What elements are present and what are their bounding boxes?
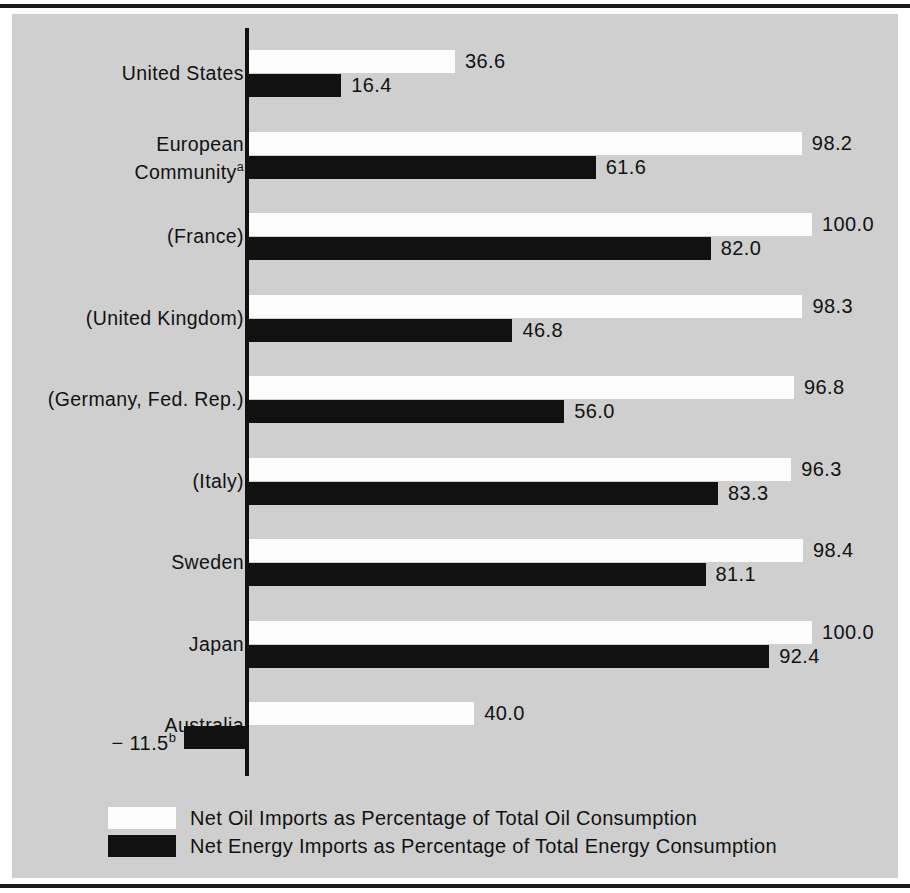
legend-swatch-oil xyxy=(108,807,176,829)
chart-panel: United States36.616.4EuropeanCommunitya9… xyxy=(12,14,898,878)
energy-bar-japan xyxy=(249,645,769,668)
energy-bar-united-kingdom xyxy=(249,319,512,342)
footnote-marker-australia-energy: b xyxy=(169,730,177,745)
legend-row-energy: Net Energy Imports as Percentage of Tota… xyxy=(12,832,898,860)
chart-legend: Net Oil Imports as Percentage of Total O… xyxy=(12,804,898,860)
legend-label-energy: Net Energy Imports as Percentage of Tota… xyxy=(190,832,777,860)
energy-bar-united-states xyxy=(249,74,341,97)
oil-value-united-kingdom: 98.3 xyxy=(812,295,853,318)
chart-page: United States36.616.4EuropeanCommunitya9… xyxy=(0,0,910,893)
oil-value-germany-fed-rep: 96.8 xyxy=(804,376,845,399)
energy-value-united-kingdom: 46.8 xyxy=(522,319,563,342)
energy-value-united-states: 16.4 xyxy=(351,74,392,97)
bar-group-australia: Australia40.0− 11.5b xyxy=(12,702,898,749)
bar-group-united-kingdom: (United Kingdom)98.346.8 xyxy=(12,295,898,342)
oil-value-japan: 100.0 xyxy=(822,621,874,644)
energy-value-australia: − 11.5b xyxy=(112,726,177,755)
energy-bar-european-community xyxy=(249,156,596,179)
legend-row-oil: Net Oil Imports as Percentage of Total O… xyxy=(12,804,898,832)
oil-bar-sweden xyxy=(249,539,803,562)
oil-bar-italy xyxy=(249,458,791,481)
bar-group-japan: Japan100.092.4 xyxy=(12,621,898,668)
energy-bar-germany-fed-rep xyxy=(249,400,564,423)
oil-value-italy: 96.3 xyxy=(801,458,842,481)
top-rule xyxy=(0,4,910,8)
oil-bar-united-states xyxy=(249,50,455,73)
category-label-united-states: United States xyxy=(122,62,244,85)
oil-value-france: 100.0 xyxy=(822,213,874,236)
oil-bar-france xyxy=(249,213,812,236)
oil-value-australia: 40.0 xyxy=(484,702,525,725)
footnote-marker-european-community: a xyxy=(237,160,244,174)
energy-bar-australia xyxy=(184,726,249,749)
oil-bar-germany-fed-rep xyxy=(249,376,794,399)
energy-value-european-community: 61.6 xyxy=(606,156,647,179)
energy-bar-italy xyxy=(249,482,718,505)
oil-value-united-states: 36.6 xyxy=(465,50,506,73)
bar-group-sweden: Sweden98.481.1 xyxy=(12,539,898,586)
oil-bar-european-community xyxy=(249,132,802,155)
energy-value-sweden: 81.1 xyxy=(716,563,757,586)
bottom-rule xyxy=(0,884,910,888)
bar-group-european-community: EuropeanCommunitya98.261.6 xyxy=(12,132,898,179)
bar-group-france: (France)100.082.0 xyxy=(12,213,898,260)
energy-value-germany-fed-rep: 56.0 xyxy=(574,400,615,423)
bar-group-italy: (Italy)96.383.3 xyxy=(12,458,898,505)
bar-group-united-states: United States36.616.4 xyxy=(12,50,898,97)
energy-value-france: 82.0 xyxy=(721,237,762,260)
category-label-italy: (Italy) xyxy=(192,470,244,493)
energy-value-japan: 92.4 xyxy=(779,645,820,668)
energy-value-italy: 83.3 xyxy=(728,482,769,505)
category-label-japan: Japan xyxy=(189,633,244,656)
category-label-france: (France) xyxy=(167,225,244,248)
energy-bar-sweden xyxy=(249,563,706,586)
category-label-european-community: EuropeanCommunitya xyxy=(134,133,244,184)
energy-bar-france xyxy=(249,237,711,260)
legend-label-oil: Net Oil Imports as Percentage of Total O… xyxy=(190,804,697,832)
bar-group-germany-fed-rep: (Germany, Fed. Rep.)96.856.0 xyxy=(12,376,898,423)
oil-value-european-community: 98.2 xyxy=(812,132,853,155)
category-label-united-kingdom: (United Kingdom) xyxy=(86,307,244,330)
oil-bar-united-kingdom xyxy=(249,295,802,318)
category-label-sweden: Sweden xyxy=(171,551,244,574)
plot-area: United States36.616.4EuropeanCommunitya9… xyxy=(12,14,898,789)
oil-bar-australia xyxy=(249,702,474,725)
oil-value-sweden: 98.4 xyxy=(813,539,854,562)
oil-bar-japan xyxy=(249,621,812,644)
legend-swatch-energy xyxy=(108,835,176,857)
category-label-germany-fed-rep: (Germany, Fed. Rep.) xyxy=(48,388,244,411)
